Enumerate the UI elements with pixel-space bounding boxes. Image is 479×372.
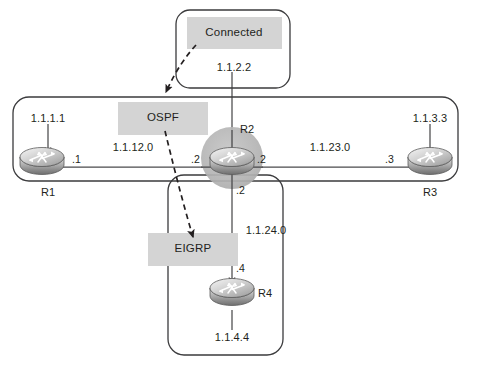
eigrp-domain-label: EIGRP bbox=[175, 243, 212, 255]
r2-interface-south-label: .2 bbox=[236, 185, 245, 196]
router-r4[interactable] bbox=[210, 279, 254, 306]
subnet-label-r1-r2: 1.1.12.0 bbox=[113, 142, 154, 153]
subnet-label-r2-r4: 1.1.24.0 bbox=[246, 225, 287, 236]
r4-name-label: R4 bbox=[258, 288, 272, 299]
router-r3[interactable] bbox=[408, 148, 452, 175]
r4-loopback-address: 1.1.4.4 bbox=[215, 332, 249, 343]
router-r2[interactable] bbox=[210, 148, 254, 175]
r3-loopback-address: 1.1.3.3 bbox=[413, 113, 447, 124]
connected-domain-label: Connected bbox=[205, 27, 262, 39]
r3-name-label: R3 bbox=[423, 187, 437, 198]
r3-interface-label: .3 bbox=[385, 154, 394, 165]
annotation-arrows bbox=[165, 45, 196, 237]
r1-loopback-address: 1.1.1.1 bbox=[31, 113, 65, 124]
r2-name-label: R2 bbox=[240, 124, 254, 135]
subnet-label-r2-r3: 1.1.23.0 bbox=[310, 142, 351, 153]
r2-interface-west-label: .2 bbox=[191, 154, 200, 165]
r2-interface-east-label: .2 bbox=[257, 154, 266, 165]
r4-interface-label: .4 bbox=[236, 263, 245, 274]
network-diagram: Connected 1.1.2.2 OSPF EIGRP 1.1.1.1 R1 … bbox=[0, 0, 479, 372]
r2-loopback-address: 1.1.2.2 bbox=[217, 62, 251, 73]
r1-name-label: R1 bbox=[41, 187, 55, 198]
router-r1[interactable] bbox=[20, 148, 64, 175]
r1-interface-label: .1 bbox=[72, 154, 81, 165]
ospf-domain-label: OSPF bbox=[147, 112, 179, 124]
